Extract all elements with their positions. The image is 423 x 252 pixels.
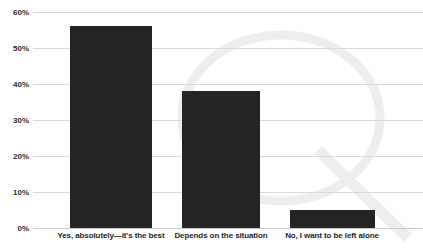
bar-yes-absolutely[interactable] bbox=[70, 26, 152, 228]
bar-chart: 60% 50% 40% 30% 20% 10% 0% Yes, absolute… bbox=[0, 0, 423, 252]
x-label-no-left-alone: No, I want to be left alone bbox=[265, 231, 399, 240]
y-tick-label-60: 60% bbox=[0, 8, 29, 17]
y-tick-label-10: 10% bbox=[0, 188, 29, 197]
y-tick-label-0: 0% bbox=[0, 224, 29, 233]
y-tick-label-50: 50% bbox=[0, 44, 29, 53]
y-tick-label-20: 20% bbox=[0, 152, 29, 161]
gridline-60 bbox=[33, 12, 423, 13]
y-tick-label-40: 40% bbox=[0, 80, 29, 89]
plot-area: Yes, absolutely—it's the best Depends on… bbox=[33, 0, 423, 252]
y-tick-label-30: 30% bbox=[0, 116, 29, 125]
bar-no-left-alone[interactable] bbox=[290, 210, 375, 228]
axis-baseline bbox=[33, 228, 423, 229]
bar-depends-on-situation[interactable] bbox=[182, 91, 260, 228]
